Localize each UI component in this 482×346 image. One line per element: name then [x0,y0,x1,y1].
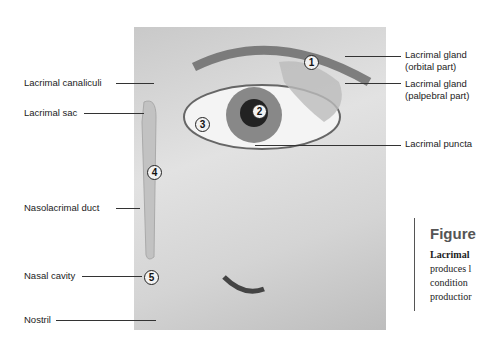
label-gland-orbital: Lacrimal gland(orbital part) [405,49,467,73]
label-lacrimal-canaliculi: Lacrimal canaliculi [24,77,102,89]
marker-1: 1 [304,55,319,70]
label-nostril: Nostril [24,314,51,326]
label-nasal-cavity: Nasal cavity [24,270,75,282]
leader-line [56,320,156,321]
leader-line [255,145,401,146]
figure-caption: Lacrimal produces l condition productior [430,248,472,304]
leader-line [345,83,401,84]
label-gland-palpebral: Lacrimal gland(palpebral part) [405,78,469,102]
marker-4: 4 [147,165,162,180]
label-lacrimal-sac: Lacrimal sac [24,107,77,119]
eye-anatomy-drawing [134,27,386,330]
marker-3: 3 [195,117,210,132]
leader-line [84,113,144,114]
label-lacrimal-puncta: Lacrimal puncta [405,138,472,150]
figure-title: Figure [430,225,476,242]
label-nasolacrimal-duct: Nasolacrimal duct [24,202,100,214]
face-illustration [134,27,386,330]
figure-rule [414,218,415,311]
leader-line [345,56,401,57]
leader-line [82,276,142,277]
leader-line [116,83,154,84]
marker-5: 5 [144,270,159,285]
leader-line [116,208,140,209]
marker-2: 2 [252,104,267,119]
